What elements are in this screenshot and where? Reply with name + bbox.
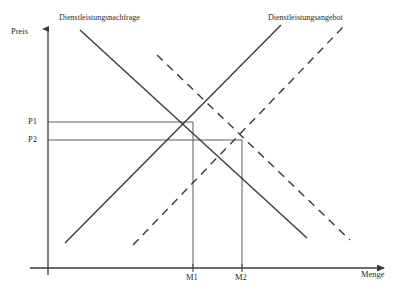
y-axis-label: Preis xyxy=(11,27,28,36)
supply-demand-svg xyxy=(0,0,416,297)
demand-curve-label: Dienstleistungsnachfrage xyxy=(59,14,140,22)
diagram-canvas: Preis Menge Dienstleistungsnachfrage Die… xyxy=(0,0,416,297)
guide-lines-group xyxy=(48,122,242,268)
supply-curve-dashed xyxy=(133,25,345,245)
curves-group xyxy=(65,25,350,245)
price-tick-p1: P1 xyxy=(28,117,37,126)
axis-group xyxy=(30,29,384,275)
x-axis-label: Menge xyxy=(361,270,385,279)
quantity-tick-m1: M1 xyxy=(186,273,198,282)
demand-curve-solid xyxy=(80,30,307,238)
supply-curve-label: Dienstleistungsangebot xyxy=(268,14,343,22)
price-tick-p2: P2 xyxy=(28,135,37,144)
quantity-tick-m2: M2 xyxy=(235,273,247,282)
demand-curve-dashed xyxy=(157,55,350,240)
supply-curve-solid xyxy=(65,25,281,243)
